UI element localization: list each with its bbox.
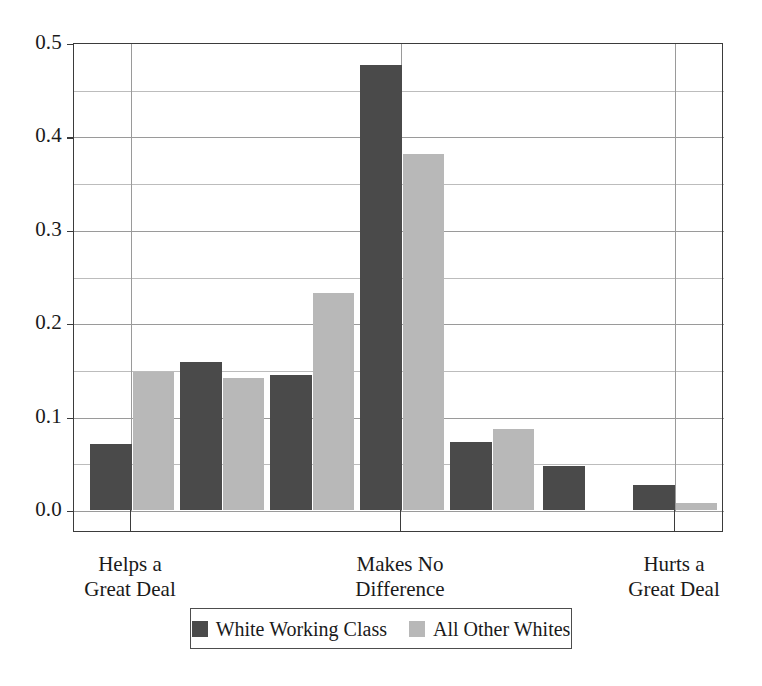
x-axis-tick-label-line: Makes No xyxy=(355,552,444,577)
x-axis-tick xyxy=(130,510,131,532)
legend-entry-all-other-whites: All Other Whites xyxy=(409,619,570,639)
y-axis-tick-label: 0.1 xyxy=(35,406,62,427)
bar xyxy=(633,485,675,510)
x-axis-tick-label-line: Hurts a xyxy=(628,552,720,577)
bar xyxy=(403,154,444,510)
bar xyxy=(90,444,132,510)
legend-entry-white-working-class: White Working Class xyxy=(192,619,387,639)
x-axis-tick xyxy=(400,510,401,532)
x-axis-tick-label-line: Difference xyxy=(355,577,444,602)
y-axis-tick-label: 0.3 xyxy=(35,219,62,240)
bar xyxy=(450,442,492,510)
gridline-major xyxy=(74,511,724,512)
chart-legend: White Working Class All Other Whites xyxy=(190,608,572,649)
x-axis-tick-label-line: Great Deal xyxy=(84,577,176,602)
bar xyxy=(360,65,402,510)
bar xyxy=(223,378,264,510)
bars-layer xyxy=(73,43,723,510)
bar xyxy=(270,375,312,510)
x-axis-tick-label: Makes NoDifference xyxy=(355,552,444,602)
bar xyxy=(313,293,354,510)
y-axis-tick xyxy=(67,511,74,512)
bar-chart-figure: 0.00.10.20.30.40.5 Helps aGreat DealMake… xyxy=(0,0,762,686)
x-axis-tick-label-line: Great Deal xyxy=(628,577,720,602)
legend-swatch-all-other-whites xyxy=(409,621,425,637)
y-axis-labels: 0.00.10.20.30.40.5 xyxy=(0,0,62,686)
bar xyxy=(133,372,174,510)
bar xyxy=(676,503,717,510)
x-axis-tick-label: Helps aGreat Deal xyxy=(84,552,176,602)
legend-swatch-white-working-class xyxy=(192,621,208,637)
y-axis-tick-label: 0.5 xyxy=(35,32,62,53)
y-axis-tick-label: 0.4 xyxy=(35,125,62,146)
bar xyxy=(493,429,534,510)
x-axis-tick-label: Hurts aGreat Deal xyxy=(628,552,720,602)
legend-label-white-working-class: White Working Class xyxy=(216,619,387,639)
legend-label-all-other-whites: All Other Whites xyxy=(433,619,570,639)
y-axis-tick-label: 0.2 xyxy=(35,312,62,333)
bar xyxy=(543,466,585,510)
x-axis-tick xyxy=(674,510,675,532)
y-axis-tick-label: 0.0 xyxy=(35,499,62,520)
bar xyxy=(180,362,222,510)
x-axis-tick-label-line: Helps a xyxy=(84,552,176,577)
